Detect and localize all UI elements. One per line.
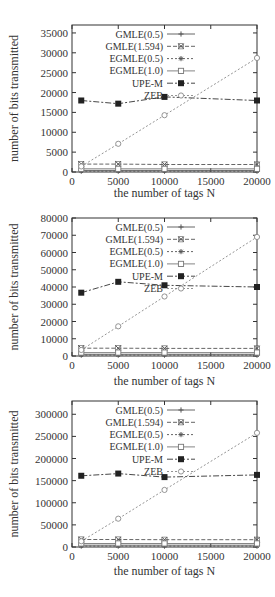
y-axis-title: number of bits transmitted	[7, 224, 21, 351]
x-tick-label: 0	[69, 175, 75, 187]
legend-label: EGMLE(1.0)	[109, 441, 163, 453]
legend-label: GMLE(0.5)	[116, 222, 164, 234]
square-marker-icon	[178, 68, 183, 73]
filled-square-marker-icon	[78, 473, 84, 479]
filled-square-marker-icon	[178, 80, 184, 86]
circle-marker-icon	[162, 113, 167, 118]
circle-marker-icon	[116, 516, 121, 521]
plus-marker-icon	[178, 31, 183, 36]
legend-label: GMLE(0.5)	[116, 29, 164, 41]
x-tick-label: 10000	[151, 550, 179, 562]
circle-marker-icon	[116, 324, 121, 329]
square-marker-icon	[178, 261, 183, 266]
legend-label: UPE-M	[132, 78, 163, 89]
legend: GMLE(0.5)GMLE(1.594)EGMLE(0.5)EGMLE(1.0)…	[106, 405, 196, 478]
y-tick-label: 40000	[41, 281, 69, 293]
series-gmle-1-594-	[79, 346, 260, 351]
y-tick-label: 50000	[41, 519, 69, 531]
filled-square-marker-icon	[178, 273, 184, 279]
circle-marker-icon	[79, 164, 84, 169]
square-marker-icon	[178, 444, 183, 449]
legend-label: EGMLE(0.5)	[109, 429, 163, 441]
circle-marker-icon	[162, 487, 167, 492]
series-upe-m	[78, 471, 260, 481]
y-tick-label: 100000	[35, 497, 69, 509]
legend-label: ZEB	[144, 90, 163, 101]
legend-label: GMLE(1.594)	[106, 417, 164, 429]
y-tick-label: 200000	[35, 453, 69, 465]
chart-2: 0100002000030000400005000060000700008000…	[7, 212, 271, 388]
plot-frame	[72, 401, 257, 547]
y-tick-label: 150000	[35, 475, 69, 487]
circle-marker-icon	[79, 347, 84, 352]
legend-label: ZEB	[144, 466, 163, 477]
y-tick-label: 30000	[41, 298, 69, 310]
circle-marker-icon	[178, 286, 183, 291]
filled-square-marker-icon	[254, 97, 260, 103]
series-zeb	[79, 234, 260, 352]
series-line	[81, 58, 257, 166]
x-axis-title: the number of tags N	[114, 186, 216, 200]
square-marker-icon	[162, 541, 167, 546]
plus-marker-icon	[178, 407, 183, 412]
circle-marker-icon	[79, 539, 84, 544]
legend: GMLE(0.5)GMLE(1.594)EGMLE(0.5)EGMLE(1.0)…	[106, 29, 196, 102]
y-axis-title: number of bits transmitted	[7, 411, 21, 538]
x-tick-label: 10000	[151, 359, 179, 371]
filled-square-marker-icon	[115, 471, 121, 477]
series-gmle-1-594-	[79, 537, 260, 542]
y-tick-label: 10000	[41, 333, 69, 345]
y-tick-label: 20000	[41, 316, 69, 328]
series-line	[81, 474, 257, 478]
circle-marker-icon	[178, 93, 183, 98]
series-gmle-1-594-	[79, 161, 260, 167]
series-line	[81, 433, 257, 541]
circle-marker-icon	[254, 430, 259, 435]
legend-label: UPE-M	[132, 271, 163, 282]
legend-label: ZEB	[144, 283, 163, 294]
x-tick-label: 0	[69, 550, 75, 562]
filled-square-marker-icon	[115, 101, 121, 107]
y-tick-label: 25000	[41, 67, 69, 79]
circle-marker-icon	[254, 234, 259, 239]
square-marker-icon	[254, 541, 259, 546]
circle-marker-icon	[116, 141, 121, 146]
series-line	[81, 97, 257, 104]
series-line	[81, 237, 257, 350]
y-tick-label: 5000	[46, 146, 69, 158]
plus-marker-icon	[178, 224, 183, 229]
y-tick-label: 30000	[41, 47, 69, 59]
y-tick-label: 300000	[35, 408, 69, 420]
legend-label: GMLE(1.594)	[106, 234, 164, 246]
y-tick-label: 250000	[35, 430, 69, 442]
y-tick-label: 80000	[41, 212, 69, 224]
circle-marker-icon	[178, 469, 183, 474]
circle-marker-icon	[254, 55, 259, 60]
series-upe-m	[78, 94, 260, 107]
filled-square-marker-icon	[254, 472, 260, 478]
x-tick-label: 0	[69, 359, 75, 371]
y-axis-title: number of bits transmitted	[7, 35, 21, 162]
chart-1: 0500010000150002000025000300003500005000…	[7, 25, 271, 200]
star-marker-icon	[178, 249, 183, 254]
x-axis-title: the number of tags N	[114, 374, 216, 388]
x-tick-label: 20000	[243, 175, 271, 187]
square-marker-icon	[162, 166, 167, 171]
series-egmle-0-5-	[79, 353, 260, 358]
x-tick-label: 20000	[243, 550, 271, 562]
star-marker-icon	[178, 432, 183, 437]
square-marker-icon	[254, 350, 259, 355]
y-tick-label: 70000	[41, 229, 69, 241]
x-tick-label: 5000	[107, 359, 130, 371]
filled-square-marker-icon	[78, 290, 84, 296]
y-tick-label: 60000	[41, 247, 69, 259]
square-marker-icon	[116, 541, 121, 546]
series-zeb	[79, 55, 260, 169]
square-marker-icon	[116, 350, 121, 355]
series-line	[81, 282, 257, 293]
figure-canvas: 0500010000150002000025000300003500005000…	[0, 0, 275, 597]
circle-marker-icon	[162, 294, 167, 299]
legend-label: GMLE(0.5)	[116, 405, 164, 417]
y-tick-label: 0	[63, 541, 69, 553]
square-marker-icon	[162, 350, 167, 355]
